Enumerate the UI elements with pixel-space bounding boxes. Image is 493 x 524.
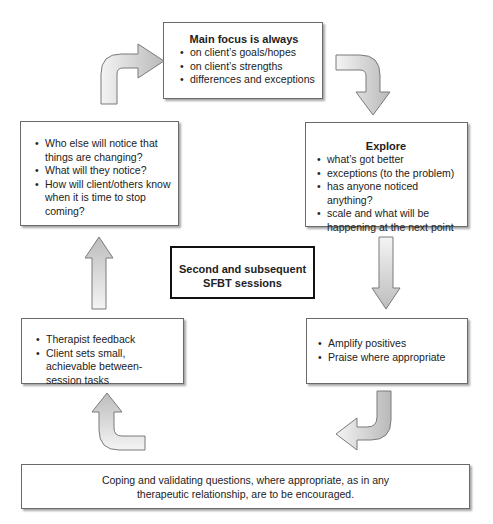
notice-box: Who else will notice that things are cha…: [20, 121, 179, 226]
curved-arrow-left-up-icon: [95, 390, 155, 452]
curved-arrow-up-right-icon: [98, 44, 170, 106]
curved-arrow-right-down-icon: [335, 52, 395, 117]
feedback-item: Therapist feedback: [46, 333, 177, 347]
curved-arrow-down-left-icon: [335, 390, 395, 452]
amplify-box: Amplify positives Praise where appropria…: [306, 318, 468, 384]
main-focus-item: on client’s strengths: [190, 60, 316, 74]
feedback-box: Therapist feedback Client sets small, ac…: [21, 318, 184, 384]
notice-item: What will they notice?: [45, 164, 172, 178]
amplify-item: Praise where appropriate: [328, 351, 463, 365]
main-focus-item: differences and exceptions: [190, 73, 316, 87]
main-focus-item: on client’s goals/hopes: [190, 46, 316, 60]
feedback-item: Client sets small, achievable between-se…: [46, 347, 177, 388]
main-focus-title: Main focus is always: [172, 32, 316, 46]
explore-item: scale and what will be happening at the …: [327, 207, 463, 234]
arrow-up-icon: [84, 236, 114, 310]
explore-item: has anyone noticed anything?: [327, 180, 463, 207]
main-focus-box: Main focus is always on client’s goals/h…: [163, 22, 323, 99]
explore-title: Explore: [309, 139, 463, 153]
center-session-box: Second and subsequent SFBT sessions: [170, 246, 315, 299]
explore-item: what’s got better: [327, 153, 463, 167]
coping-line-2: therapeutic relationship, are to be enco…: [28, 487, 463, 501]
center-line-1: Second and subsequent: [176, 262, 309, 276]
amplify-item: Amplify positives: [328, 337, 463, 351]
coping-line-1: Coping and validating questions, where a…: [28, 473, 463, 487]
explore-item: exceptions (to the problem): [327, 167, 463, 181]
notice-item: How will client/others know when it is t…: [45, 178, 172, 219]
center-line-2: SFBT sessions: [176, 276, 309, 290]
coping-note-box: Coping and validating questions, where a…: [21, 464, 470, 509]
explore-box: Explore what’s got better exceptions (to…: [305, 122, 468, 227]
notice-item: Who else will notice that things are cha…: [45, 137, 172, 164]
arrow-down-icon: [371, 236, 401, 310]
